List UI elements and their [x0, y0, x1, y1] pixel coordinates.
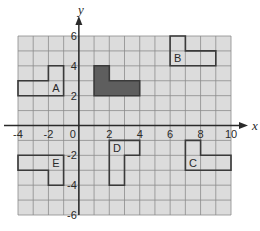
- figure-label-e: E: [52, 157, 59, 169]
- y-tick-label: -4: [67, 179, 77, 191]
- y-axis-arrow-icon: [75, 16, 82, 25]
- coordinate-grid: ABCDE xy -4-20246810642-2-4-6: [0, 0, 260, 231]
- figure-label-c: C: [189, 157, 197, 169]
- y-tick-label: -2: [67, 149, 77, 161]
- figure-label-b: B: [174, 52, 181, 64]
- figure-label-d: D: [113, 142, 121, 154]
- x-tick-label: 2: [106, 128, 112, 140]
- y-tick-label: 2: [71, 90, 77, 102]
- y-tick-label: 6: [71, 30, 77, 42]
- x-tick-label: 6: [167, 128, 173, 140]
- y-axis-label: y: [76, 2, 84, 17]
- x-tick-label: 0: [70, 128, 76, 140]
- x-tick-label: 8: [198, 128, 204, 140]
- x-tick-label: 4: [137, 128, 143, 140]
- x-tick-label: 10: [225, 128, 237, 140]
- y-tick-label: -6: [67, 209, 77, 221]
- x-tick-label: -4: [13, 128, 23, 140]
- figure-label-a: A: [52, 82, 60, 94]
- x-axis-arrow-icon: [239, 122, 248, 129]
- x-tick-label: -2: [44, 128, 54, 140]
- y-tick-label: 4: [71, 60, 77, 72]
- x-axis-label: x: [251, 118, 258, 133]
